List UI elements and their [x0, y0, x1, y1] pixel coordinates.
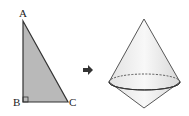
vertex-label-a: A [19, 8, 27, 19]
rotation-diagram: A B C [0, 0, 189, 116]
double-cone [109, 19, 180, 108]
vertex-label-b: B [13, 97, 20, 108]
arrow-icon [83, 65, 93, 75]
triangle-abc [23, 21, 68, 102]
vertex-label-c: C [69, 97, 76, 108]
diagram-canvas [0, 0, 189, 116]
